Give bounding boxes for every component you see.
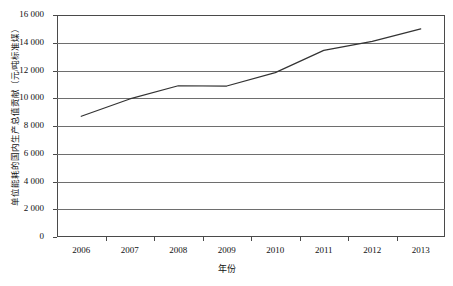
y-tick-mark bbox=[53, 15, 57, 16]
y-axis-title: 单位能耗的国内生产总值贡献（元/吨标准煤） bbox=[10, 0, 20, 235]
x-axis-title: 年份 bbox=[0, 262, 453, 275]
x-tick-label: 2012 bbox=[352, 246, 392, 255]
x-tick-mark bbox=[251, 237, 252, 241]
y-tick-mark bbox=[53, 182, 57, 183]
x-tick-mark bbox=[348, 237, 349, 241]
y-tick-mark bbox=[53, 126, 57, 127]
gridline bbox=[57, 43, 445, 44]
y-tick-mark bbox=[53, 71, 57, 72]
y-tick-mark bbox=[53, 43, 57, 44]
x-tick-label: 2006 bbox=[61, 246, 101, 255]
y-tick-label: 6 000 bbox=[0, 149, 44, 158]
x-tick-label: 2013 bbox=[401, 246, 441, 255]
x-tick-mark bbox=[203, 237, 204, 241]
gridline bbox=[57, 98, 445, 99]
y-tick-label: 14 000 bbox=[0, 38, 44, 47]
x-tick-mark bbox=[397, 237, 398, 241]
x-tick-label: 2010 bbox=[255, 246, 295, 255]
gridline bbox=[57, 182, 445, 183]
x-tick-mark bbox=[154, 237, 155, 241]
y-tick-label: 0 bbox=[0, 232, 44, 241]
x-tick-mark bbox=[300, 237, 301, 241]
gridline bbox=[57, 126, 445, 127]
gridline bbox=[57, 209, 445, 210]
x-tick-mark bbox=[106, 237, 107, 241]
y-tick-mark bbox=[53, 154, 57, 155]
y-tick-mark bbox=[53, 209, 57, 210]
y-tick-label: 16 000 bbox=[0, 10, 44, 19]
y-tick-mark bbox=[53, 237, 57, 238]
y-tick-label: 4 000 bbox=[0, 177, 44, 186]
line-chart: 单位能耗的国内生产总值贡献（元/吨标准煤） 02 0004 0006 0008 … bbox=[0, 0, 453, 286]
plot-wrapper: 02 0004 0006 0008 00010 00012 00014 0001… bbox=[57, 15, 445, 237]
x-tick-label: 2011 bbox=[304, 246, 344, 255]
x-tick-label: 2007 bbox=[110, 246, 150, 255]
y-tick-label: 12 000 bbox=[0, 66, 44, 75]
y-tick-label: 2 000 bbox=[0, 204, 44, 213]
x-tick-label: 2009 bbox=[207, 246, 247, 255]
gridline bbox=[57, 71, 445, 72]
y-tick-label: 8 000 bbox=[0, 121, 44, 130]
gridline bbox=[57, 154, 445, 155]
y-tick-label: 10 000 bbox=[0, 93, 44, 102]
y-tick-mark bbox=[53, 98, 57, 99]
x-tick-label: 2008 bbox=[158, 246, 198, 255]
